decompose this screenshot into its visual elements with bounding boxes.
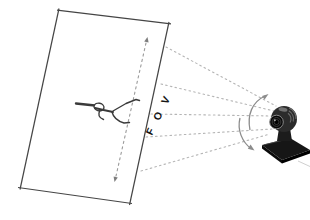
figure-canvas: FOV: [0, 0, 310, 220]
fov-ray-3: [151, 114, 272, 116]
webcam-icon: [262, 106, 310, 167]
tilt-arrow-up-arc: [249, 96, 265, 130]
webcam-base-shadow-line: [298, 161, 310, 167]
tilt-arrow-up: [249, 94, 268, 130]
fov-ray-1: [166, 47, 276, 106]
fov-ray-2: [161, 84, 274, 111]
webcam-base: [262, 138, 310, 160]
fov-diagram: FOV: [0, 0, 310, 220]
fov-ray-5: [141, 134, 270, 171]
tilt-arrow-down-head: [248, 145, 255, 151]
tilt-arrow-down: [239, 118, 254, 151]
fov-ray-4: [146, 129, 272, 137]
webcam-lens-glint: [274, 119, 276, 121]
